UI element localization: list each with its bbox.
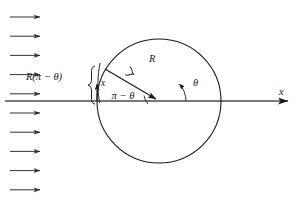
arc-length-brace bbox=[88, 66, 95, 104]
label-pi-minus-theta: π − θ bbox=[112, 90, 135, 101]
figure-root: R(π − θ) x R π − θ θ x bbox=[0, 0, 304, 209]
theta-arc bbox=[180, 84, 187, 101]
label-radius-R: R bbox=[148, 53, 156, 64]
label-theta: θ bbox=[193, 77, 198, 88]
label-arc-length: R(π − θ) bbox=[25, 71, 63, 83]
label-local-x: x bbox=[100, 78, 106, 88]
radius-brace bbox=[125, 67, 137, 79]
flow-arrow-group bbox=[10, 17, 40, 190]
label-x-axis: x bbox=[278, 86, 284, 97]
flow-past-cylinder-diagram: R(π − θ) x R π − θ θ x bbox=[0, 0, 304, 209]
pi-minus-theta-arc bbox=[144, 96, 148, 105]
